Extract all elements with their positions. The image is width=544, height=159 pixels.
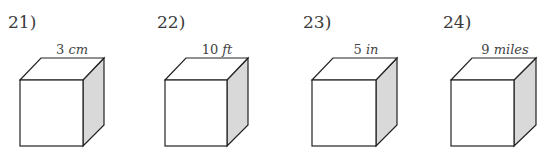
edge-length-label: 3 cm (56, 42, 88, 57)
edge-length-label: 9 miles (481, 42, 529, 57)
cube-figures: 3 cm 10 ft 5 in 9 miles (0, 0, 544, 159)
cube-23: 5 in (312, 42, 397, 146)
cube-21: 3 cm (20, 42, 104, 146)
cube-24: 9 miles (451, 42, 536, 146)
cube-22: 10 ft (165, 42, 248, 146)
edge-length-label: 10 ft (202, 42, 233, 57)
edge-length-label: 5 in (354, 42, 379, 57)
